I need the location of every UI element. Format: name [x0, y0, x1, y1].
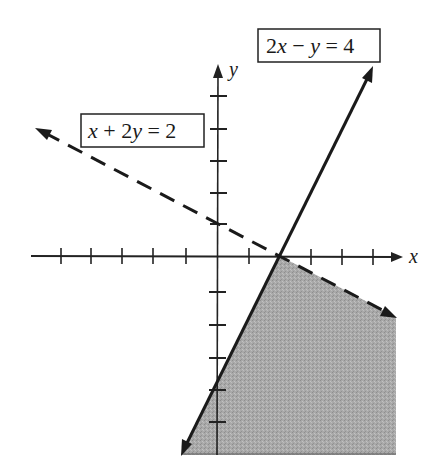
svg-text:2x − y = 4: 2x − y = 4 — [266, 33, 354, 58]
arrow-up-icon — [362, 66, 373, 83]
arrow-left-icon — [35, 128, 52, 140]
shaded-region — [181, 256, 396, 455]
arrow-right-icon — [380, 306, 397, 318]
y-axis-label: y — [227, 58, 238, 81]
label-x-plus-2y-eq-2: x + 2y = 2 — [81, 114, 204, 147]
x-axis-arrow-icon — [391, 252, 403, 262]
y-axis-arrow-icon — [213, 64, 223, 78]
svg-text:x + 2y = 2: x + 2y = 2 — [87, 118, 176, 143]
x-axis-label: x — [408, 245, 418, 267]
label-2x-minus-y-eq-4: 2x − y = 4 — [258, 29, 380, 62]
inequality-graph: 2x − y = 4 x + 2y = 2 x y — [0, 0, 445, 475]
